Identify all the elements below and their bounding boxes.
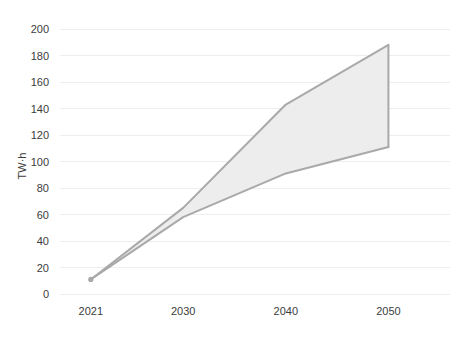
y-axis-tick-label: 120 [31, 129, 49, 141]
y-axis-tick-label: 0 [43, 288, 49, 300]
chart-container: 020406080100120140160180200 202120302040… [0, 0, 461, 339]
y-axis-tick-label: 20 [37, 262, 49, 274]
x-axis-tick-label: 2030 [171, 305, 195, 317]
y-axis-tick-label: 180 [31, 50, 49, 62]
x-axis-tick-label: 2040 [274, 305, 298, 317]
x-axis-tick-label: 2050 [376, 305, 400, 317]
y-axis-tick-label: 100 [31, 156, 49, 168]
y-axis-tick-label: 80 [37, 182, 49, 194]
range-band-chart: 020406080100120140160180200 202120302040… [0, 0, 461, 339]
x-axis-tick-label: 2021 [79, 305, 103, 317]
y-axis-title: TW·h [16, 153, 28, 180]
series-start-point-marker [88, 277, 93, 282]
y-axis-tick-label: 160 [31, 76, 49, 88]
y-axis-tick-label: 40 [37, 235, 49, 247]
y-axis-tick-label: 140 [31, 103, 49, 115]
y-axis-tick-label: 200 [31, 23, 49, 35]
y-axis-tick-label: 60 [37, 209, 49, 221]
